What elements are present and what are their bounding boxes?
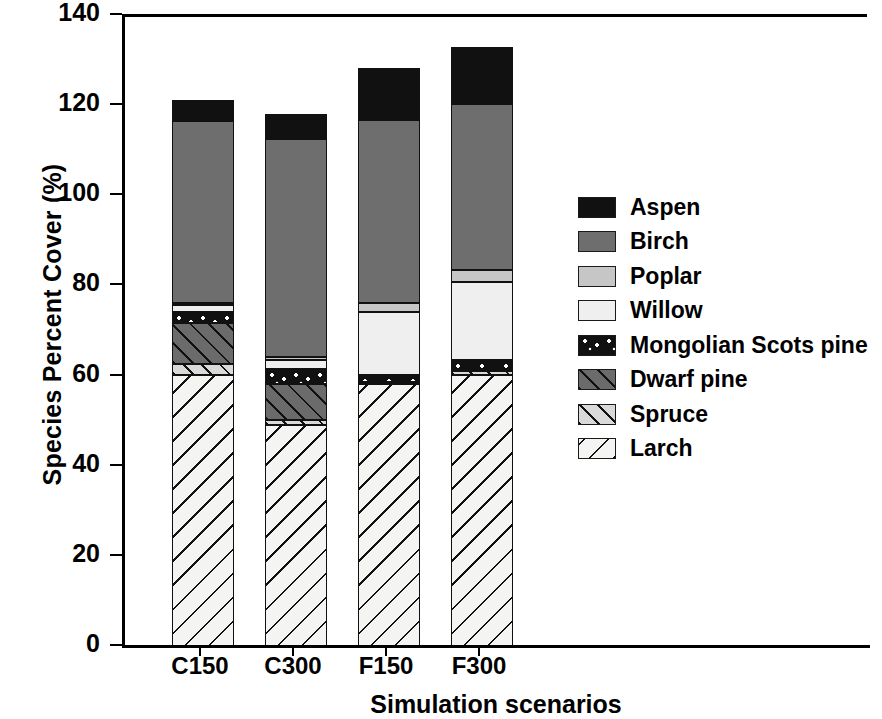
y-tick-label: 60 <box>4 359 100 388</box>
bar-segment-poplar <box>358 303 420 312</box>
legend-label: Larch <box>630 435 693 462</box>
bar-segment-dwarf-pine <box>358 382 420 384</box>
bar-segment-birch <box>172 121 234 304</box>
bar-segment-spruce <box>451 371 513 376</box>
legend-label: Mongolian Scots pine <box>630 332 868 359</box>
bar-f300 <box>451 17 513 648</box>
y-tick-mark <box>110 103 122 105</box>
bar-segment-larch <box>358 384 420 648</box>
bar-segment-willow <box>265 360 327 369</box>
bar-segment-mongolian-scots-pine <box>451 360 513 369</box>
x-axis-title: Simulation scenarios <box>122 690 870 719</box>
bar-segment-willow <box>451 282 513 361</box>
y-tick-mark <box>110 554 122 556</box>
x-axis-line <box>122 645 870 648</box>
legend-label: Willow <box>630 297 703 324</box>
chart-legend: AspenBirchPoplarWillowMongolian Scots pi… <box>578 190 868 466</box>
white-hatched-swatch <box>578 438 616 459</box>
legend-item-birch[interactable]: Birch <box>578 225 868 260</box>
bar-segment-poplar <box>265 357 327 359</box>
legend-item-mongolian-scots-pine[interactable]: Mongolian Scots pine <box>578 328 868 363</box>
legend-label: Dwarf pine <box>630 366 748 393</box>
solid-black-swatch <box>578 197 616 218</box>
bar-segment-aspen <box>451 47 513 103</box>
bar-segment-willow <box>172 305 234 312</box>
bar-segment-birch <box>265 139 327 358</box>
y-tick-label: 20 <box>4 539 100 568</box>
legend-label: Aspen <box>630 194 700 221</box>
bar-segment-larch <box>451 375 513 648</box>
bar-segment-mongolian-scots-pine <box>358 375 420 382</box>
bar-c300 <box>265 17 327 648</box>
light-hatched-swatch <box>578 404 616 425</box>
legend-item-spruce[interactable]: Spruce <box>578 397 868 432</box>
legend-item-larch[interactable]: Larch <box>578 432 868 467</box>
bar-segment-dwarf-pine <box>451 369 513 371</box>
bar-segment-poplar <box>172 303 234 305</box>
bar-segment-birch <box>451 104 513 271</box>
bar-segment-aspen <box>172 100 234 120</box>
legend-item-poplar[interactable]: Poplar <box>578 259 868 294</box>
bar-f150 <box>358 17 420 648</box>
solid-gray-swatch <box>578 231 616 252</box>
solid-light-gray-swatch <box>578 266 616 287</box>
bar-segment-mongolian-scots-pine <box>172 312 234 323</box>
y-tick-mark <box>110 464 122 466</box>
legend-item-aspen[interactable]: Aspen <box>578 190 868 225</box>
bar-segment-birch <box>358 120 420 303</box>
y-tick-label: 80 <box>4 268 100 297</box>
y-tick-mark <box>110 283 122 285</box>
y-tick-label: 0 <box>4 629 100 658</box>
y-tick-mark <box>110 193 122 195</box>
y-tick-label: 100 <box>4 178 100 207</box>
y-tick-mark <box>110 374 122 376</box>
solid-near-white-swatch <box>578 300 616 321</box>
bar-segment-spruce <box>265 420 327 425</box>
y-tick-mark <box>110 644 122 646</box>
bar-c150 <box>172 17 234 648</box>
stacked-bar-chart-figure: Species Percent Cover (%) 02040608010012… <box>0 0 882 719</box>
bar-segment-aspen <box>265 114 327 139</box>
bar-segment-spruce <box>172 364 234 375</box>
bar-segment-dwarf-pine <box>265 384 327 420</box>
bar-segment-willow <box>358 312 420 375</box>
legend-label: Birch <box>630 228 689 255</box>
x-tick-label-f300: F300 <box>414 652 544 680</box>
bar-segment-poplar <box>451 270 513 281</box>
y-tick-mark <box>110 13 122 15</box>
bar-segment-mongolian-scots-pine <box>265 369 327 385</box>
dotted-black-swatch <box>578 335 616 356</box>
y-tick-label: 40 <box>4 449 100 478</box>
dark-hatched-swatch <box>578 369 616 390</box>
legend-item-dwarf-pine[interactable]: Dwarf pine <box>578 363 868 398</box>
legend-item-willow[interactable]: Willow <box>578 294 868 329</box>
y-tick-label: 140 <box>4 0 100 27</box>
y-tick-label: 120 <box>4 88 100 117</box>
bar-segment-aspen <box>358 68 420 120</box>
legend-label: Poplar <box>630 263 702 290</box>
bar-segment-larch <box>172 375 234 648</box>
bar-segment-larch <box>265 425 327 648</box>
legend-label: Spruce <box>630 401 708 428</box>
bar-segment-dwarf-pine <box>172 323 234 364</box>
